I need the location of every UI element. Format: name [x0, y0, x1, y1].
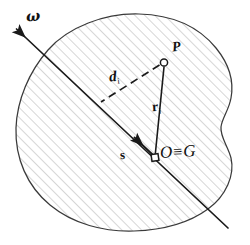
figure-container: ω P di ri s O≡G [0, 0, 250, 245]
origin-centroid-label: O≡G [160, 142, 196, 161]
centroid-g-symbol: G [183, 141, 196, 161]
point-o-marker [151, 154, 159, 162]
radius-r-label: ri [152, 100, 161, 115]
point-p-marker [160, 59, 167, 66]
omega-label: ω [25, 8, 41, 24]
point-p-label: P [171, 40, 181, 55]
body-hatching [0, 0, 250, 245]
distance-d-symbol: d [108, 68, 117, 85]
distance-d-label: di [108, 69, 119, 85]
radius-r-symbol: r [151, 99, 158, 114]
radius-r-subscript: i [158, 106, 161, 115]
vector-s-label: s [120, 148, 126, 161]
rigid-body-diagram [0, 0, 250, 245]
